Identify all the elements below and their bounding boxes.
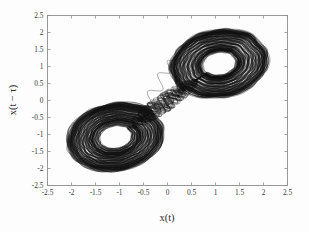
y-tick-label: -2.5 — [32, 181, 44, 190]
y-tick-label: -1.5 — [32, 147, 44, 156]
y-tick-label: 0 — [40, 96, 44, 105]
y-tick-label: -1 — [37, 130, 43, 139]
x-tick-label: 1 — [214, 188, 218, 197]
x-tick-label: -1.5 — [90, 188, 102, 197]
x-tick-label: -1 — [116, 188, 122, 197]
y-tick-label: 1.5 — [34, 45, 44, 54]
x-tick-label: 0.5 — [187, 188, 197, 197]
x-tick-label: 2 — [262, 188, 266, 197]
y-tick-label: 0.5 — [34, 79, 44, 88]
x-tick-label: -0.5 — [138, 188, 150, 197]
x-tick-label: 1.5 — [235, 188, 245, 197]
x-tick-label: 2.5 — [283, 188, 293, 197]
x-tick-label: 0 — [166, 188, 170, 197]
y-tick-label: 2.5 — [34, 11, 44, 20]
x-axis-label: x(t) — [159, 212, 175, 224]
y-tick-label: -0.5 — [32, 113, 44, 122]
phase-space-figure: -2.5-2-1.5-1-0.500.511.522.5 2.521.510.5… — [0, 0, 309, 232]
y-tick-label: 1 — [40, 62, 44, 71]
y-axis-label: x(t − τ) — [7, 84, 19, 115]
y-tick-label: -2 — [37, 164, 43, 173]
y-tick-label: 2 — [40, 28, 44, 37]
x-tick-label: -2 — [68, 188, 74, 197]
phase-space-plot: -2.5-2-1.5-1-0.500.511.522.5 2.521.510.5… — [0, 0, 309, 232]
